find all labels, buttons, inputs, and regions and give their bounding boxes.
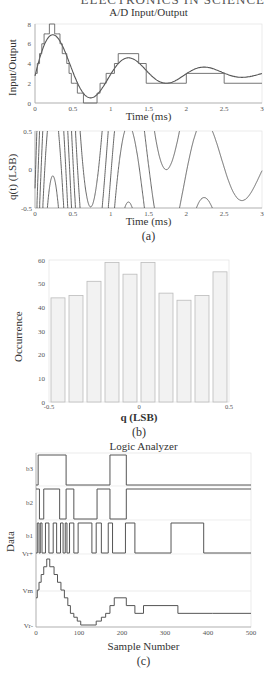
plot-frame	[35, 131, 262, 208]
caption-c: (c)	[36, 654, 251, 669]
y-tick-label: 10	[38, 375, 46, 383]
quantized-output-line	[35, 24, 262, 103]
chart-qt: 00.511.522.53-0.500.5	[0, 120, 269, 225]
y-tick-label: 50	[38, 280, 46, 288]
histogram-bar	[105, 262, 119, 402]
digital-trace-b1	[36, 523, 251, 553]
row-label-vr: Vr-	[24, 622, 34, 630]
y-tick-label: 0.5	[23, 128, 32, 136]
y-tick-label: 40	[38, 304, 46, 312]
x-tick-label: 200	[117, 629, 128, 637]
x-axis-label-qt: Time (ms)	[35, 215, 262, 227]
x-tick-label: 0	[34, 629, 38, 637]
x-tick-label: 300	[160, 629, 171, 637]
caption-a: (a)	[35, 229, 262, 244]
digital-trace-b2	[36, 489, 251, 519]
x-tick-label: 500	[246, 629, 257, 637]
row-label-vm: Vm	[23, 587, 34, 595]
caption-b: (b)	[49, 425, 229, 440]
histogram-bar	[51, 298, 65, 402]
x-tick-label: 100	[74, 629, 85, 637]
y-tick-label: 0	[29, 166, 33, 174]
analog-step-trace	[36, 559, 251, 625]
histogram-bar	[159, 293, 173, 402]
x-tick-label: 0.5	[225, 403, 233, 410]
histogram-bar	[69, 296, 83, 403]
x-axis-label-hist: q (LSB)	[49, 411, 229, 423]
histogram-bar	[195, 296, 209, 403]
x-tick-label: -0.5	[44, 403, 54, 410]
chart-ad-io: 00.511.522.5302468	[0, 0, 269, 125]
y-tick-label: 0	[28, 100, 32, 108]
x-tick-label: 400	[203, 629, 214, 637]
y-tick-label: -0.5	[21, 205, 33, 213]
histogram-bar	[123, 274, 137, 402]
row-label-b2: b2	[26, 499, 34, 507]
y-tick-label: 30	[38, 328, 46, 336]
histogram-bar	[87, 281, 101, 402]
y-tick-label: 20	[38, 351, 46, 359]
quantization-error-line	[35, 131, 262, 208]
x-axis-label-logic: Sample Number	[36, 640, 251, 652]
chart-logic-analyzer: b3b2b1Vr+VmVr-0100200300400500	[0, 445, 269, 640]
y-tick-label: 2	[28, 80, 32, 88]
x-tick-label: 0	[137, 403, 140, 410]
y-tick-label: 4	[28, 60, 32, 68]
histogram-bar	[177, 300, 191, 402]
histogram-bar	[213, 272, 227, 402]
row-label-vr: Vr+	[22, 550, 33, 558]
y-tick-label: 6	[28, 40, 32, 48]
chart-histogram: -0.500.50102030405060	[0, 250, 269, 415]
row-label-b3: b3	[26, 465, 34, 473]
y-tick-label: 0	[42, 399, 46, 407]
row-label-b1: b1	[26, 532, 34, 540]
histogram-bar	[141, 262, 155, 402]
y-tick-label: 60	[38, 257, 46, 265]
y-tick-label: 8	[28, 21, 32, 29]
digital-trace-b3	[36, 455, 251, 485]
